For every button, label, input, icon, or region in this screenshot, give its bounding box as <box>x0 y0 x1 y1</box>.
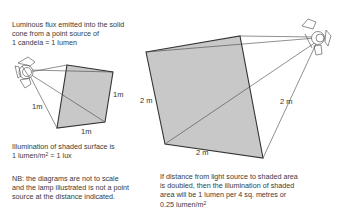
illumination-caption-line: Illumination of shaded surface is <box>12 142 115 151</box>
note-caption-line: source at the distance indicated. <box>12 192 129 201</box>
flux-caption-line: Luminous flux emitted into the solid <box>12 20 124 29</box>
doubled-caption-line: area will be 1 lumen per 4 sq. metres or <box>160 190 298 199</box>
flux-caption-line: 1 candela = 1 lumen <box>12 38 124 47</box>
large-bottom-side-label: 2 m <box>196 148 209 157</box>
note-caption-line: NB: the diagrams are not to scale <box>12 174 129 183</box>
illumination-caption-line: 1 lumen/m2 = 1 lux <box>12 151 115 160</box>
doubled-distance-caption: If distance from light source to shaded … <box>160 172 298 209</box>
small-left-side-label: 1m <box>32 102 42 111</box>
large-right-side-label: 2 m <box>280 97 293 106</box>
superscript: 2 <box>46 151 49 157</box>
note-caption-line: and the lamp illustrated is not a point <box>12 183 129 192</box>
illumination-unit: 1 lumen/m <box>12 151 46 160</box>
small-bottom-side-label: 1m <box>81 127 91 136</box>
large-left-side-label: 2 m <box>140 96 153 105</box>
flux-caption-line: cone from a point source of <box>12 29 124 38</box>
large-shaded-square <box>146 36 263 158</box>
note-caption: NB: the diagrams are not to scale and th… <box>12 174 129 202</box>
spotlight-lamp-icon-right <box>302 19 331 55</box>
spotlight-lamp-icon-left <box>15 57 35 88</box>
illumination-lux: = 1 lux <box>48 151 71 160</box>
doubled-unit: 0.25 lumen/m <box>160 200 204 209</box>
doubled-caption-line: 0.25 lumen/m2 <box>160 200 298 209</box>
small-cone-diagram <box>30 65 113 128</box>
flux-caption: Luminous flux emitted into the solid con… <box>12 20 124 48</box>
doubled-caption-line: If distance from light source to shaded … <box>160 172 298 181</box>
illumination-caption: Illumination of shaded surface is 1 lume… <box>12 142 115 160</box>
doubled-caption-line: is doubled, then the illumination of sha… <box>160 181 298 190</box>
small-right-side-label: 1m <box>113 90 123 99</box>
superscript: 2 <box>204 200 207 206</box>
